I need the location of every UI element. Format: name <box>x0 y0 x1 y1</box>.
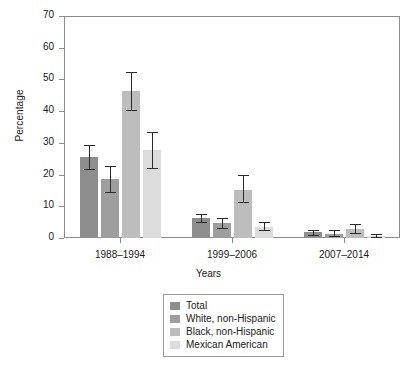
legend-swatch <box>170 315 180 323</box>
error-bar-cap-lower <box>196 222 207 223</box>
y-axis-tick-label: 20 <box>43 168 54 179</box>
bars-layer <box>64 16 400 238</box>
legend-item: Mexican American <box>170 339 275 351</box>
error-bar-cap-upper <box>105 166 116 167</box>
error-bar-cap-lower <box>217 228 228 229</box>
legend-item: Total <box>170 300 275 312</box>
error-bar-cap-upper <box>126 72 137 73</box>
bar <box>122 91 140 238</box>
y-axis-tick-label: 70 <box>43 9 54 20</box>
legend-swatch <box>170 328 180 336</box>
error-bar-cap-upper <box>147 132 158 133</box>
error-bar-line <box>89 145 90 170</box>
error-bar-line <box>110 166 111 192</box>
error-bar-cap-lower <box>147 168 158 169</box>
error-bar-cap-upper <box>238 175 249 176</box>
y-axis-tick-label: 30 <box>43 136 54 147</box>
error-bar-line <box>264 222 265 231</box>
error-bar-cap-upper <box>217 218 228 219</box>
error-bar-line <box>222 218 223 228</box>
x-axis-title: Years <box>0 268 417 279</box>
y-axis-tick-label: 60 <box>43 41 54 52</box>
error-bar-cap-upper <box>329 230 340 231</box>
legend-item-label: Mexican American <box>186 340 268 350</box>
error-bar-cap-upper <box>371 234 382 235</box>
error-bar-cap-upper <box>259 222 270 223</box>
error-bar-cap-lower <box>259 230 270 231</box>
legend-item: Black, non-Hispanic <box>170 326 275 338</box>
error-bar-cap-lower <box>308 235 319 236</box>
legend-swatch <box>170 302 180 310</box>
error-bar-cap-lower <box>126 110 137 111</box>
legend: TotalWhite, non-HispanicBlack, non-Hispa… <box>163 294 284 357</box>
y-axis-tick-label: 0 <box>48 231 54 242</box>
error-bar-cap-lower <box>84 169 95 170</box>
x-axis-tick-label: 2007–2014 <box>284 249 404 260</box>
error-bar-cap-upper <box>84 145 95 146</box>
error-bar-cap-lower <box>350 233 361 234</box>
error-bar-cap-upper <box>350 224 361 225</box>
legend-item-label: Total <box>186 301 207 311</box>
y-axis-tick-mark <box>59 238 64 239</box>
legend-item-label: White, non-Hispanic <box>186 314 275 324</box>
legend-item-label: Black, non-Hispanic <box>186 327 274 337</box>
y-axis-tick-label: 50 <box>43 72 54 83</box>
y-axis-tick-label: 40 <box>43 104 54 115</box>
error-bar-line <box>201 214 202 222</box>
bar-chart: Percentage 010203040506070 1988–19941999… <box>0 0 417 371</box>
y-axis-tick-label: 10 <box>43 199 54 210</box>
error-bar-cap-lower <box>329 236 340 237</box>
error-bar-cap-lower <box>105 192 116 193</box>
x-axis-tick-mark <box>120 238 121 243</box>
x-axis-tick-mark <box>232 238 233 243</box>
x-axis-tick-label: 1999–2006 <box>172 249 292 260</box>
error-bar-cap-lower <box>371 237 382 238</box>
error-bar-cap-upper <box>308 230 319 231</box>
y-axis-title: Percentage <box>14 71 25 161</box>
error-bar-line <box>152 132 153 167</box>
x-axis-tick-label: 1988–1994 <box>60 249 180 260</box>
legend-swatch <box>170 341 180 349</box>
error-bar-line <box>355 224 356 233</box>
error-bar-cap-lower <box>238 202 249 203</box>
legend-item: White, non-Hispanic <box>170 313 275 325</box>
error-bar-line <box>131 72 132 110</box>
error-bar-cap-upper <box>196 214 207 215</box>
x-axis-tick-mark <box>344 238 345 243</box>
error-bar-line <box>243 175 244 202</box>
